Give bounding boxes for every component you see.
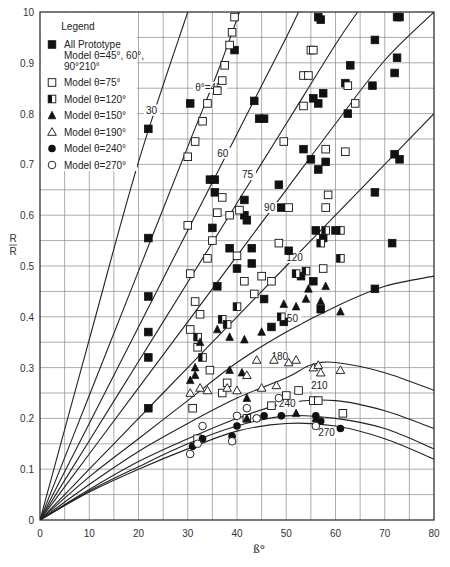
half-square-fill <box>199 354 203 362</box>
data-points <box>145 13 404 457</box>
data-point-filled-square <box>211 176 219 184</box>
data-point-filled-triangle <box>258 328 266 336</box>
data-point-filled-circle <box>233 422 241 430</box>
data-point-filled-square <box>248 260 256 268</box>
half-square-fill <box>223 321 227 329</box>
x-tick-label: 0 <box>37 528 43 539</box>
data-point-open-square <box>268 402 276 410</box>
data-point-filled-square <box>317 305 325 313</box>
data-point-open-square <box>214 87 222 95</box>
data-point-open-square <box>218 77 226 85</box>
legend-entry-label: Model θ=75° <box>64 77 121 88</box>
data-point-filled-square <box>211 189 219 197</box>
data-point-open-square <box>204 255 212 263</box>
data-point-half-square <box>233 303 241 311</box>
x-tick-label: 30 <box>182 528 194 539</box>
data-point-half-square <box>223 321 231 329</box>
data-point-open-square <box>295 387 303 395</box>
data-point-filled-square <box>248 244 256 252</box>
half-square-fill <box>194 333 198 341</box>
data-point-filled-square <box>260 295 268 303</box>
y-tick-label: 0 <box>28 515 34 526</box>
data-point-filled-triangle <box>292 302 300 310</box>
data-point-filled-square <box>312 227 320 235</box>
legend-title: Legend <box>61 21 94 32</box>
data-point-open-triangle <box>186 389 195 397</box>
data-point-open-triangle <box>272 381 281 389</box>
data-point-open-square <box>186 270 194 278</box>
half-square-fill <box>337 255 341 263</box>
data-point-open-circle <box>253 415 261 423</box>
data-point-open-square <box>184 222 192 230</box>
data-point-open-square <box>282 392 290 400</box>
data-point-open-square <box>236 206 244 214</box>
data-point-open-circle <box>194 440 202 448</box>
data-point-filled-square <box>391 69 399 77</box>
data-point-filled-square <box>310 277 318 285</box>
data-point-open-circle <box>243 404 251 412</box>
curve-label: 60 <box>217 148 229 159</box>
x-tick-labels: 01020304050607080 <box>37 528 440 539</box>
data-point-open-circle <box>233 412 241 420</box>
data-point-open-square <box>258 272 266 280</box>
legend-marker-open-circle <box>48 161 56 169</box>
data-point-open-square <box>241 277 249 285</box>
data-point-open-square <box>189 404 197 412</box>
data-point-half-square <box>199 354 207 362</box>
data-point-half-square <box>337 227 345 235</box>
data-point-filled-square <box>393 54 401 62</box>
data-point-open-square <box>233 252 241 260</box>
legend-entry-label: Model θ=45°, 60°, <box>64 50 144 61</box>
data-point-open-square <box>268 277 276 285</box>
data-point-filled-square <box>243 216 251 224</box>
curve-label: 75 <box>242 169 254 180</box>
curve-label: 90 <box>264 202 276 213</box>
data-point-open-square <box>186 326 194 334</box>
data-point-filled-square <box>314 166 322 174</box>
data-point-open-square <box>300 102 308 110</box>
legend-marker-filled-square <box>48 41 56 49</box>
y-axis-title-denominator: R <box>9 246 16 257</box>
data-point-filled-triangle <box>191 371 199 379</box>
data-point-open-square <box>191 138 199 146</box>
legend-marker-open-square <box>48 79 56 87</box>
data-point-half-square <box>302 267 310 275</box>
y-tick-label: 0.4 <box>20 312 34 323</box>
data-point-filled-square <box>322 158 330 166</box>
data-point-filled-square <box>344 110 352 118</box>
data-point-open-square <box>209 237 217 245</box>
y-tick-label: 10 <box>23 7 35 18</box>
data-point-filled-circle <box>337 425 345 433</box>
data-point-half-square <box>322 227 330 235</box>
data-point-half-square <box>278 313 286 321</box>
data-point-open-square <box>196 310 204 318</box>
half-square-fill <box>233 303 237 311</box>
half-square-fill <box>322 227 326 235</box>
data-point-filled-square <box>209 224 217 232</box>
data-point-filled-square <box>300 145 308 153</box>
half-square-fill <box>292 270 296 278</box>
y-tick-label: 0.8 <box>20 109 34 120</box>
data-point-filled-square <box>275 181 283 189</box>
data-point-filled-square <box>319 89 327 97</box>
data-point-filled-triangle <box>191 363 199 371</box>
data-point-open-circle <box>186 450 194 458</box>
data-point-filled-square <box>371 285 379 293</box>
curve-label: 270 <box>318 427 335 438</box>
data-point-open-triangle <box>233 386 242 394</box>
data-point-filled-circle <box>278 412 286 420</box>
data-point-open-square <box>339 410 347 418</box>
legend-entry-label: Model θ=120° <box>64 94 126 105</box>
data-point-open-circle <box>199 422 207 430</box>
data-point-open-square <box>204 100 212 108</box>
data-point-filled-triangle <box>337 307 345 315</box>
legend-marker-filled-circle <box>48 145 56 153</box>
y-tick-label: 0.1 <box>20 464 34 475</box>
data-point-filled-square <box>388 239 396 247</box>
half-square-fill <box>302 267 306 275</box>
data-point-filled-triangle <box>322 282 330 290</box>
y-tick-labels: 00.10.20.30.40.50.60.70.80.910 <box>20 7 34 526</box>
data-point-open-circle <box>275 394 283 402</box>
y-tick-label: 0.2 <box>20 413 34 424</box>
data-point-open-square <box>322 204 330 212</box>
